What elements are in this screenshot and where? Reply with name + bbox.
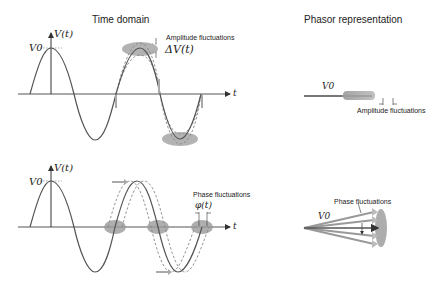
amplitude-blob-peak [122,42,158,56]
bottom-phasor [304,203,387,248]
top-phasor-annotation: Amplitude fluctuations [357,107,425,114]
bottom-v-axis-label: V(t) [54,162,73,173]
top-v0-label: V0 [29,42,43,53]
bottom-phasor-annotation: Phase fluctuations [334,198,391,205]
phasor-title: Phasor representation [304,14,402,25]
shift-arrow-top [112,179,128,185]
bottom-t-label: t [233,221,237,231]
bottom-v0-label: V0 [29,176,43,187]
bottom-time-domain-plot [18,166,230,275]
bottom-annotation-math: φ(t) [195,200,212,210]
top-time-domain-plot [18,33,230,146]
bottom-annotation-title: Phase fluctuations [193,191,250,198]
top-v-axis-label: V(t) [54,28,73,39]
top-phasor [304,91,397,105]
top-annotation-title: Amplitude fluctuations [166,34,234,41]
shift-arrow-bottom [156,269,172,275]
diagram-canvas [0,0,434,289]
top-annotation-math: ΔV(t) [165,43,194,56]
bottom-phasor-v0: V0 [318,211,330,221]
top-t-label: t [233,88,237,98]
time-domain-title: Time domain [92,14,149,25]
top-phasor-v0: V0 [322,81,334,91]
